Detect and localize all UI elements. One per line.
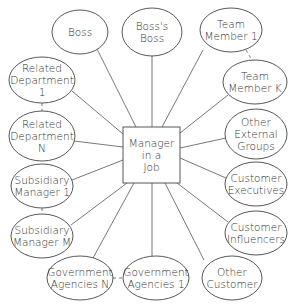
edge-subsidiary-manager-m: [71, 183, 127, 225]
other-customer-label-line: Other: [217, 266, 247, 278]
customer-influencers-label-line: Influencers: [227, 233, 285, 245]
node-boss: Boss: [52, 10, 108, 54]
customer-executives-label-line: Executives: [228, 184, 285, 196]
manager-label-line: Job: [143, 161, 159, 173]
node-subsidiary-manager-m: SubsidiaryManager M: [11, 214, 73, 258]
node-government-agencies-n: GovernmentAgencies N: [47, 256, 113, 300]
manager-in-a-job-box: Managerin aJob: [123, 127, 180, 183]
other-external-groups-label-line: Other: [241, 116, 271, 128]
team-member-k-label-line: Member K: [228, 82, 282, 94]
edge-customer-executives: [180, 158, 226, 178]
subsidiary-manager-m-label-line: Manager M: [13, 236, 71, 248]
subsidiary-manager-m-label-line: Subsidiary: [15, 224, 70, 236]
stakeholder-diagram: BossBoss'sBossTeamMember 1RelatedDepartm…: [0, 0, 296, 306]
edge-other-external-groups: [180, 138, 226, 148]
related-department-1-label-line: 1: [39, 86, 46, 98]
manager-label-line: in a: [142, 149, 161, 161]
team-member-k-label-line: Team: [241, 70, 269, 82]
edge-related-department-1: [72, 91, 123, 134]
edge-customer-influencers: [177, 183, 228, 222]
government-agencies-n-label-line: Agencies N: [51, 278, 109, 290]
manager-label-line: Manager: [129, 137, 175, 149]
edge-subsidiary-manager-1: [72, 160, 123, 180]
node-team-member-1: TeamMember 1: [200, 8, 262, 52]
node-customer-influencers: CustomerInfluencers: [225, 211, 287, 255]
node-subsidiary-manager-1: SubsidiaryManager 1: [11, 164, 73, 208]
node-related-department-n: RelatedDepartmentN: [9, 111, 75, 161]
related-department-1-label-line: Department: [10, 74, 74, 86]
team-member-1-label-line: Member 1: [204, 30, 257, 42]
other-external-groups-label-line: Groups: [237, 140, 274, 152]
subsidiary-manager-1-label-line: Subsidiary: [15, 174, 70, 186]
dashed-link-team-member-1-team-member-k: [246, 50, 252, 60]
edge-other-customer: [165, 183, 204, 260]
related-department-n-label-line: Department: [10, 130, 74, 142]
node-related-department-1: RelatedDepartment1: [9, 57, 75, 103]
boss-label-line: Boss: [68, 26, 92, 38]
related-department-n-label-line: Related: [22, 118, 62, 130]
edge-boss: [97, 49, 136, 127]
node-other-external-groups: OtherExternalGroups: [225, 109, 287, 159]
customer-executives-label-line: Customer: [230, 172, 282, 184]
node-other-customer: OtherCustomer: [202, 256, 262, 300]
edge-government-agencies-n: [93, 183, 134, 258]
edge-related-department-n: [74, 141, 123, 147]
government-agencies-1-label-line: Agencies 1: [127, 278, 184, 290]
bosss-boss-label-line: Boss: [140, 32, 164, 44]
customer-influencers-label-line: Customer: [230, 221, 282, 233]
related-department-1-label-line: Related: [22, 62, 62, 74]
other-external-groups-label-line: External: [234, 128, 278, 140]
team-member-1-label-line: Team: [217, 18, 245, 30]
bosss-boss-label-line: Boss's: [136, 20, 169, 32]
other-customer-label-line: Customer: [206, 278, 258, 290]
node-customer-executives: CustomerExecutives: [225, 162, 287, 206]
node-team-member-k: TeamMember K: [223, 60, 287, 104]
node-government-agencies-1: GovernmentAgencies 1: [123, 256, 189, 300]
government-agencies-1-label-line: Government: [123, 266, 188, 278]
edge-team-member-k: [180, 95, 228, 133]
edge-team-member-1: [162, 50, 203, 127]
government-agencies-n-label-line: Government: [47, 266, 112, 278]
subsidiary-manager-1-label-line: Manager 1: [14, 186, 70, 198]
node-bosss-boss: Boss'sBoss: [122, 8, 182, 56]
related-department-n-label-line: N: [38, 142, 46, 154]
